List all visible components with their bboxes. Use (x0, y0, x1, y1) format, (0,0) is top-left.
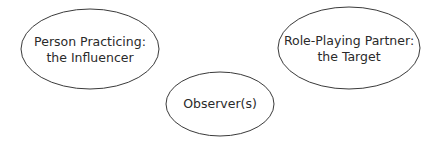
target-label-line2: the Target (278, 49, 420, 65)
observer-label: Observer(s) (166, 96, 274, 112)
influencer-label-line1: Person Practicing: (21, 34, 159, 50)
diagram-canvas (0, 0, 440, 147)
influencer-label: Person Practicing: the Influencer (21, 34, 159, 66)
target-label: Role-Playing Partner: the Target (278, 33, 420, 65)
influencer-label-line2: the Influencer (21, 50, 159, 66)
observer-label-line1: Observer(s) (166, 96, 274, 112)
target-label-line1: Role-Playing Partner: (278, 33, 420, 49)
